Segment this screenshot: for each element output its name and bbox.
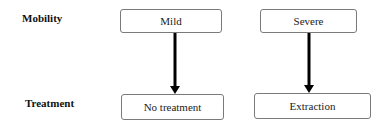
flow-diagram: Mobility Treatment Mild Severe No treatm… (0, 0, 389, 128)
arrow-mild-to-no-treatment (170, 33, 180, 94)
arrows-layer (0, 0, 389, 128)
arrowhead-icon (170, 86, 180, 94)
arrow-severe-to-extraction (304, 33, 314, 93)
arrowhead-icon (304, 85, 314, 93)
